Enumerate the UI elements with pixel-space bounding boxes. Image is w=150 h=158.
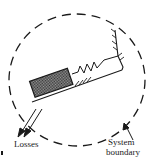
mass-block bbox=[30, 68, 73, 97]
system-label-line2: boundary bbox=[106, 147, 140, 157]
losses-label: Losses bbox=[14, 139, 39, 149]
fixed-wall bbox=[115, 30, 123, 70]
system-diagram: Losses System boundary bbox=[0, 0, 150, 158]
spring bbox=[72, 56, 118, 74]
losses-arrows bbox=[18, 109, 42, 137]
system-label-line1: System bbox=[108, 137, 135, 147]
corner-mark bbox=[1, 151, 3, 155]
